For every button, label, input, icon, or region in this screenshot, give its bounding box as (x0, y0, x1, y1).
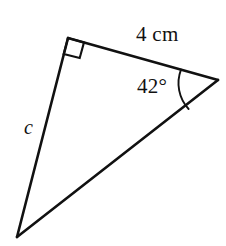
triangle-figure: 4 cm 42° c (0, 0, 226, 246)
triangle-side-hypotenuse (17, 80, 218, 237)
triangle-drawing-canvas (0, 0, 226, 246)
label-left-side-variable: c (24, 117, 33, 137)
label-top-side-length: 4 cm (136, 24, 179, 45)
label-angle-measure: 42° (137, 76, 167, 97)
